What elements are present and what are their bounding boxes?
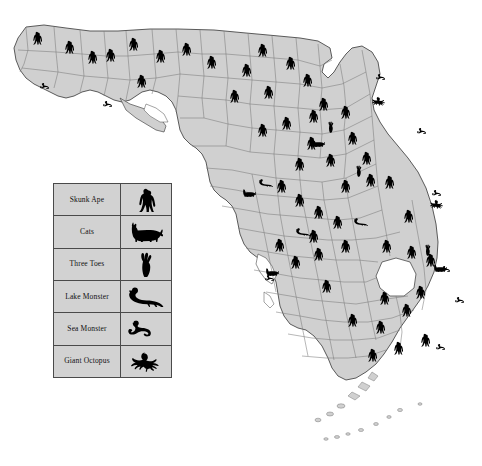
skunk-ape-icon [121, 184, 171, 215]
cat-icon [121, 216, 171, 247]
florida-keys [315, 372, 422, 440]
legend-row-skunk-ape: Skunk Ape [54, 184, 171, 216]
sea-monster-icon [455, 297, 464, 303]
legend-row-three-toes: Three Toes [54, 249, 171, 281]
charlotte-harbor [264, 292, 274, 308]
legend-row-lake-monster: Lake Monster [54, 281, 171, 313]
legend-label-cats: Cats [54, 216, 121, 247]
sea-monster-icon [103, 101, 112, 107]
sea-monster-icon [121, 313, 171, 344]
three-toes-icon [121, 249, 171, 280]
lake-monster-icon [121, 281, 171, 312]
skunk-ape-icon [421, 334, 430, 349]
giant-octopus-icon [430, 200, 443, 209]
legend-row-sea-monster: Sea Monster [54, 313, 171, 345]
sea-monster-icon [436, 344, 445, 350]
giant-octopus-icon [372, 97, 385, 106]
florida-cryptid-map: Skunk Ape Cats Three Toes Lake Monster S [0, 0, 482, 466]
sea-monster-icon [432, 190, 441, 196]
legend-label-skunk-ape: Skunk Ape [54, 184, 121, 215]
legend-label-lake-monster: Lake Monster [54, 281, 121, 312]
sea-monster-icon [417, 128, 426, 134]
giant-octopus-icon [121, 346, 171, 377]
legend-row-giant-octopus: Giant Octopus [54, 346, 171, 377]
skunk-ape-icon [394, 342, 403, 357]
legend-row-cats: Cats [54, 216, 171, 248]
legend-label-sea-monster: Sea Monster [54, 313, 121, 344]
legend-label-giant-octopus: Giant Octopus [54, 346, 121, 377]
map-legend: Skunk Ape Cats Three Toes Lake Monster S [53, 183, 172, 378]
legend-label-three-toes: Three Toes [54, 249, 121, 280]
